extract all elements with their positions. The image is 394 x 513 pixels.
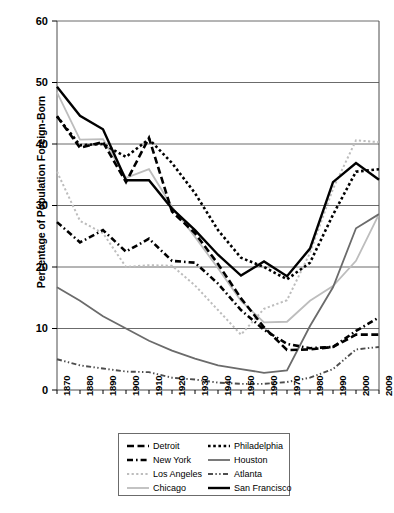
data-series-group [57, 87, 379, 384]
legend-swatch-icon [127, 469, 149, 479]
plot-area [0, 0, 390, 400]
y-tick-label: 0 [22, 385, 48, 396]
x-axis-ticks [57, 390, 379, 394]
x-tick-label: 1880 [84, 376, 95, 396]
legend-swatch-icon [208, 483, 230, 493]
x-tick-label: 1920 [176, 376, 187, 396]
legend-column-right: PhiladelphiaHoustonAtlantaSan Francisco [208, 439, 292, 495]
y-axis-ticks [52, 21, 57, 390]
x-tick-label: 1870 [61, 376, 72, 396]
legend-label: Atlanta [234, 470, 262, 479]
x-tick-label: 1940 [222, 376, 233, 396]
legend-label: Philadelphia [234, 442, 283, 451]
legend-label: Detroit [153, 442, 180, 451]
legend-label: Houston [234, 456, 268, 465]
legend-item-houston[interactable]: Houston [208, 453, 292, 467]
x-tick-label: 1990 [337, 376, 348, 396]
x-tick-label: 1950 [245, 376, 256, 396]
legend-label: New York [153, 456, 191, 465]
y-axis-title: Percentage of Population Foreign-Born [35, 47, 47, 337]
legend-swatch-icon [208, 441, 230, 451]
legend-swatch-icon [208, 469, 230, 479]
legend-swatch-icon [127, 441, 149, 451]
legend-item-san-francisco[interactable]: San Francisco [208, 481, 292, 495]
x-tick-label: 2000 [360, 376, 371, 396]
legend-column-left: DetroitNew YorkLos AngelesChicago [127, 439, 202, 495]
x-tick-label: 1890 [107, 376, 118, 396]
series-line-los-angeles [57, 140, 379, 334]
legend-label: Los Angeles [153, 470, 202, 479]
x-tick-label: 1980 [314, 376, 325, 396]
legend-label: San Francisco [234, 484, 292, 493]
legend-swatch-icon [208, 455, 230, 465]
x-tick-label: 1960 [268, 376, 279, 396]
series-line-chicago [57, 92, 379, 322]
y-tick-label: 50 [22, 77, 48, 88]
legend-item-detroit[interactable]: Detroit [127, 439, 202, 453]
x-tick-label: 1910 [153, 376, 164, 396]
y-tick-label: 40 [22, 139, 48, 150]
legend-item-new-york[interactable]: New York [127, 453, 202, 467]
y-tick-label: 20 [22, 262, 48, 273]
y-tick-label: 30 [22, 200, 48, 211]
series-line-houston [57, 214, 379, 373]
series-line-san-francisco [57, 87, 379, 276]
legend-item-philadelphia[interactable]: Philadelphia [208, 439, 292, 453]
x-tick-label: 2009 [383, 376, 394, 396]
legend-swatch-icon [127, 483, 149, 493]
chart-legend: DetroitNew YorkLos AngelesChicago Philad… [118, 433, 290, 496]
series-line-new-york [57, 222, 379, 348]
legend-swatch-icon [127, 455, 149, 465]
legend-label: Chicago [153, 484, 186, 493]
x-tick-label: 1900 [130, 376, 141, 396]
legend-item-los-angeles[interactable]: Los Angeles [127, 467, 202, 481]
y-tick-label: 60 [22, 16, 48, 27]
series-line-detroit [57, 116, 379, 350]
x-tick-label: 1970 [291, 376, 302, 396]
legend-item-atlanta[interactable]: Atlanta [208, 467, 292, 481]
y-tick-label: 10 [22, 323, 48, 334]
x-tick-label: 1930 [199, 376, 210, 396]
legend-item-chicago[interactable]: Chicago [127, 481, 202, 495]
